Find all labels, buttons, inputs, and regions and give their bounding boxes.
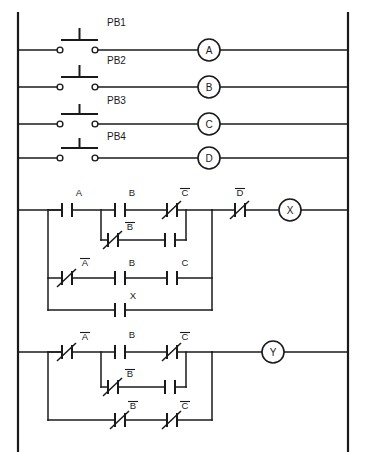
pushbutton-pb4[interactable]: [57, 138, 98, 161]
pushbutton-terminal-right: [92, 121, 98, 127]
contact-x-r3-c2[interactable]: [115, 271, 125, 285]
output-coil-label: A: [206, 45, 213, 56]
contact-label: A: [76, 187, 83, 198]
output-coil-label: B: [206, 82, 213, 93]
contact-y-r2-c2[interactable]: [165, 380, 175, 394]
ladder-diagram-canvas: PB1 A PB2 B: [0, 0, 366, 464]
pushbutton-terminal-left: [57, 155, 63, 161]
contact-x-r4-c1[interactable]: [115, 303, 125, 317]
pushbutton-label: PB1: [107, 17, 126, 28]
pushbutton-label: PB3: [107, 95, 126, 106]
contact-x-r1-c1[interactable]: [62, 203, 72, 217]
output-coil-y-label: Y: [270, 347, 277, 358]
contact-label: X: [130, 290, 137, 301]
pushbutton-pb2[interactable]: [57, 65, 98, 90]
ladder-logic-diagram: PB1 A PB2 B: [0, 0, 366, 464]
rung-pb2: PB2 B: [18, 55, 348, 98]
contact-x-r3-c3[interactable]: [167, 271, 177, 285]
output-coil-x-label: X: [287, 205, 294, 216]
contact-label: B: [129, 187, 135, 198]
rung-pb3: PB3 C: [18, 95, 348, 135]
rung-pb1: PB1 A: [18, 17, 348, 61]
contact-label: C: [182, 257, 189, 268]
contact-label: B: [129, 257, 135, 268]
output-coil-label: D: [205, 153, 212, 164]
contact-x-r1-c2[interactable]: [115, 203, 125, 217]
contact-label: B: [129, 329, 135, 340]
contact-x-r2-c2[interactable]: [165, 233, 175, 247]
rung-x: A B C: [18, 187, 348, 317]
pushbutton-pb1[interactable]: [57, 28, 98, 53]
pushbutton-terminal-left: [57, 47, 63, 53]
pushbutton-terminal-left: [57, 121, 63, 127]
pushbutton-pb3[interactable]: [57, 104, 98, 127]
pushbutton-terminal-right: [92, 47, 98, 53]
pushbutton-terminal-left: [57, 84, 63, 90]
pushbutton-terminal-right: [92, 155, 98, 161]
pushbutton-label: PB2: [107, 55, 126, 66]
pushbutton-label: PB4: [107, 131, 126, 142]
rung-pb4: PB4 D: [18, 131, 348, 169]
rung-y: A B C: [18, 329, 348, 429]
contact-y-r1-c2[interactable]: [115, 345, 125, 359]
pushbutton-terminal-right: [92, 84, 98, 90]
output-coil-label: C: [205, 119, 212, 130]
